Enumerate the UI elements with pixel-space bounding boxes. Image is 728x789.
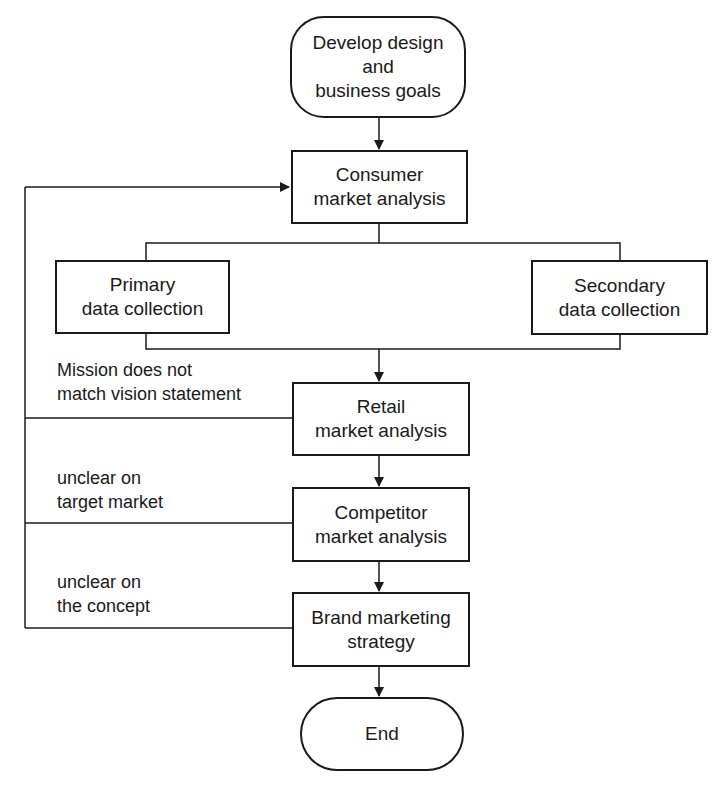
- node-text: Develop design: [313, 31, 444, 55]
- node-text: End: [365, 722, 399, 746]
- node-text: market analysis: [315, 419, 447, 443]
- node-text: Retail: [357, 395, 406, 419]
- node-text: market analysis: [315, 525, 447, 549]
- label-line: match vision statement: [57, 382, 241, 406]
- node-text: strategy: [347, 630, 415, 654]
- node-consumer-market-analysis: Consumer market analysis: [291, 150, 468, 224]
- node-secondary-data-collection: Secondary data collection: [531, 260, 708, 335]
- node-text: and: [362, 55, 394, 79]
- node-text: data collection: [559, 298, 680, 322]
- flowchart: Develop design and business goals Consum…: [0, 0, 728, 789]
- node-text: Primary: [110, 273, 175, 297]
- node-text: Consumer: [336, 163, 424, 187]
- node-brand-marketing-strategy: Brand marketing strategy: [292, 592, 470, 667]
- node-competitor-market-analysis: Competitor market analysis: [292, 487, 470, 562]
- label-line: Mission does not: [57, 358, 241, 382]
- label-line: unclear on: [57, 466, 163, 490]
- label-line: the concept: [57, 594, 150, 618]
- node-text: data collection: [82, 297, 203, 321]
- node-primary-data-collection: Primary data collection: [55, 260, 230, 334]
- node-text: market analysis: [314, 187, 446, 211]
- label-line: target market: [57, 490, 163, 514]
- feedback-label-competitor: unclear on target market: [57, 466, 163, 514]
- node-end: End: [300, 697, 464, 771]
- feedback-label-brand: unclear on the concept: [57, 570, 150, 618]
- feedback-label-retail: Mission does not match vision statement: [57, 358, 241, 406]
- node-text: Brand marketing: [311, 606, 450, 630]
- node-text: Secondary: [574, 274, 665, 298]
- node-retail-market-analysis: Retail market analysis: [292, 382, 470, 456]
- node-text: business goals: [315, 79, 441, 103]
- node-start: Develop design and business goals: [290, 16, 466, 118]
- node-text: Competitor: [335, 501, 428, 525]
- label-line: unclear on: [57, 570, 150, 594]
